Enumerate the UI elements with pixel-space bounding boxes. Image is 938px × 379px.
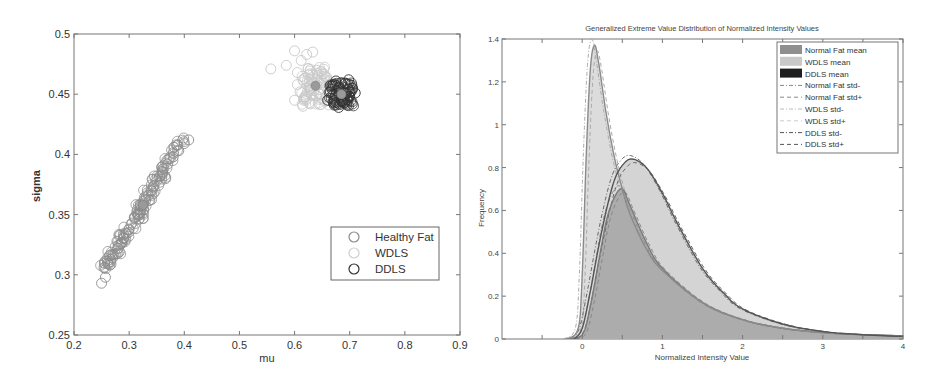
gev-x-tick: 4 xyxy=(901,342,906,351)
scatter-x-tick: 0.3 xyxy=(121,339,136,351)
gev-legend-item: DDLS std- xyxy=(805,129,842,138)
scatter-x-tick: 0.6 xyxy=(287,339,302,351)
legend-swatch-icon xyxy=(780,69,802,78)
scatter-legend: Healthy Fat WDLS DDLS xyxy=(331,227,439,280)
gev-legend-item: DDLS mean xyxy=(805,70,849,79)
scatter-x-tick: 0.5 xyxy=(232,339,247,351)
gev-x-label: Normalized Intensity Value xyxy=(655,353,750,362)
legend-wdls: WDLS xyxy=(375,247,409,259)
gev-y-tick: 1 xyxy=(495,121,500,130)
scatter-y-label: sigma xyxy=(30,169,42,202)
scatter-y-tick: 0.45 xyxy=(49,88,70,100)
gev-legend-item: DDLS std+ xyxy=(805,140,844,149)
scatter-y-tick: 0.5 xyxy=(55,28,70,40)
gev-x-tick: 3 xyxy=(821,342,826,351)
gev-legend-item: Normal Fat mean xyxy=(805,46,867,55)
scatter-x-tick: 0.8 xyxy=(397,339,412,351)
figure-canvas: 0.20.30.40.50.60.70.80.90.250.30.350.40.… xyxy=(0,0,938,379)
gev-y-label: Frequency xyxy=(477,189,486,227)
scatter-y-tick: 0.25 xyxy=(49,329,70,341)
scatter-x-tick: 0.9 xyxy=(452,339,467,351)
gev-y-tick: 0.8 xyxy=(488,164,500,173)
scatter-y-tick: 0.3 xyxy=(55,269,70,281)
legend-swatch-icon xyxy=(780,57,802,66)
gev-x-tick: 0 xyxy=(580,342,585,351)
gev-legend: Normal Fat meanWDLS meanDDLS meanNormal … xyxy=(777,42,898,153)
gev-y-tick: 1.2 xyxy=(488,78,500,87)
gev-y-tick: 0.2 xyxy=(488,292,500,301)
legend-healthy-fat: Healthy Fat xyxy=(375,231,435,243)
scatter-chart: 0.20.30.40.50.60.70.80.90.250.30.350.40.… xyxy=(30,28,468,364)
scatter-axes-box xyxy=(74,34,460,335)
legend-ddls: DDLS xyxy=(375,263,406,275)
gev-legend-item: WDLS mean xyxy=(805,58,850,67)
mean-marker-icon xyxy=(311,81,320,90)
gev-x-tick: 1 xyxy=(660,342,665,351)
gev-y-tick: 1.4 xyxy=(488,35,500,44)
gev-legend-item: WDLS std- xyxy=(805,105,844,114)
gev-legend-item: WDLS std+ xyxy=(805,117,846,126)
gev-x-tick: 2 xyxy=(740,342,745,351)
scatter-x-label: mu xyxy=(259,352,274,364)
gev-chart-title: Generalized Extreme Value Distribution o… xyxy=(585,24,819,33)
scatter-y-tick: 0.4 xyxy=(55,148,70,160)
gev-y-tick: 0 xyxy=(495,335,500,344)
mean-marker-icon xyxy=(138,200,147,209)
gev-legend-item: Normal Fat std- xyxy=(805,81,860,90)
scatter-y-tick: 0.35 xyxy=(49,209,70,221)
legend-swatch-icon xyxy=(780,45,802,54)
gev-chart: Generalized Extreme Value Distribution o… xyxy=(477,24,906,362)
gev-legend-item: Normal Fat std+ xyxy=(805,93,862,102)
gev-y-tick: 0.6 xyxy=(488,206,500,215)
scatter-x-tick: 0.4 xyxy=(177,339,192,351)
gev-y-tick: 0.4 xyxy=(488,249,500,258)
scatter-x-tick: 0.7 xyxy=(342,339,357,351)
mean-marker-icon xyxy=(337,90,346,99)
